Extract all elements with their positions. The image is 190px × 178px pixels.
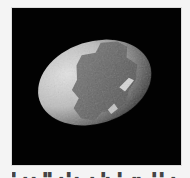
photo-frame xyxy=(12,8,181,165)
egg xyxy=(27,26,163,140)
figure-caption: ▘▗ ▖▝▘▗ ▘▖ ▗ ▝▖ ▘ ▗▖ ▝ ▘▗ xyxy=(12,172,182,178)
egg-photo xyxy=(12,8,181,165)
